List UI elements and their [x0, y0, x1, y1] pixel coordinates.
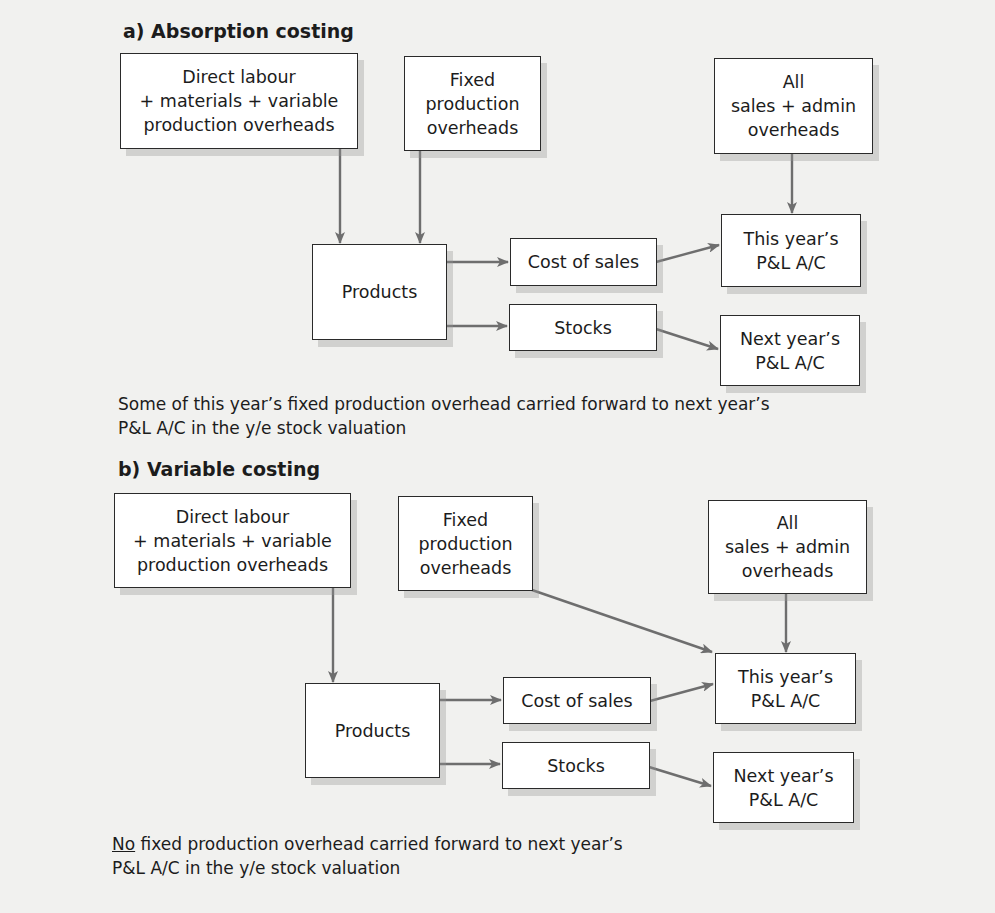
- box-sales-admin-a: All sales + admin overheads: [714, 58, 873, 154]
- caption-b-line2: P&L A/C in the y/e stock valuation: [112, 856, 400, 880]
- box-label: Cost of sales: [521, 689, 633, 713]
- box-direct-costs-a: Direct labour + materials + variable pro…: [120, 53, 358, 149]
- box-stocks-a: Stocks: [509, 304, 657, 351]
- box-fixed-overheads-a: Fixed production overheads: [404, 56, 541, 151]
- box-label: Stocks: [554, 316, 612, 340]
- box-fixed-overheads-b: Fixed production overheads: [398, 496, 533, 591]
- box-stocks-b: Stocks: [502, 742, 650, 789]
- box-label: Stocks: [547, 754, 605, 778]
- section-a-title: a) Absorption costing: [123, 20, 354, 42]
- box-label: All sales + admin overheads: [725, 511, 850, 583]
- box-label: Direct labour + materials + variable pro…: [133, 505, 332, 577]
- box-label: Fixed production overheads: [419, 508, 513, 580]
- box-label: Products: [342, 280, 418, 304]
- box-direct-costs-b: Direct labour + materials + variable pro…: [114, 493, 351, 588]
- box-products-a: Products: [312, 244, 447, 340]
- box-label: This year’s P&L A/C: [743, 227, 838, 275]
- arrow-cos-to-thisyear-b: [650, 684, 713, 701]
- box-cost-of-sales-a: Cost of sales: [510, 238, 657, 286]
- box-products-b: Products: [305, 683, 440, 778]
- box-cost-of-sales-b: Cost of sales: [503, 677, 651, 724]
- box-sales-admin-b: All sales + admin overheads: [708, 500, 867, 594]
- diagram-page: a) Absorption costing Direct labour + ma…: [0, 0, 995, 913]
- box-label: Next year’s P&L A/C: [740, 327, 840, 375]
- box-label: Products: [335, 719, 411, 743]
- caption-a-line2: P&L A/C in the y/e stock valuation: [118, 416, 406, 440]
- caption-a-line1: Some of this year’s fixed production ove…: [118, 392, 770, 416]
- box-label: Cost of sales: [528, 250, 640, 274]
- box-next-year-pl-a: Next year’s P&L A/C: [720, 315, 860, 386]
- box-label: All sales + admin overheads: [731, 70, 856, 142]
- caption-b-line1-rest: fixed production overhead carried forwar…: [135, 834, 623, 854]
- arrow-stocks-to-nextyear: [656, 329, 718, 349]
- caption-b-line1: No fixed production overhead carried for…: [112, 832, 623, 856]
- box-label: Fixed production overheads: [426, 68, 520, 140]
- box-next-year-pl-b: Next year’s P&L A/C: [713, 752, 854, 823]
- box-label: This year’s P&L A/C: [738, 665, 833, 713]
- box-label: Direct labour + materials + variable pro…: [140, 65, 339, 137]
- arrow-stocks-to-nextyear-b: [649, 767, 711, 786]
- box-this-year-pl-a: This year’s P&L A/C: [721, 214, 861, 287]
- caption-emphasis-no: No: [112, 834, 135, 854]
- box-label: Next year’s P&L A/C: [733, 764, 833, 812]
- arrow-cos-to-thisyear: [656, 245, 719, 262]
- arrow-fixed-to-thisyear-b: [532, 590, 712, 652]
- section-b-title: b) Variable costing: [118, 458, 320, 480]
- box-this-year-pl-b: This year’s P&L A/C: [715, 653, 856, 724]
